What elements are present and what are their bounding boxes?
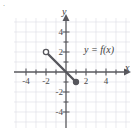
graph-figure: ·	[0, 0, 136, 130]
open-endpoint	[43, 49, 48, 54]
xtick-label-4: 4	[100, 76, 112, 86]
xtick-label-neg4: -4	[18, 76, 34, 86]
ytick-label-neg4: -4	[46, 107, 63, 117]
closed-endpoint	[73, 79, 78, 84]
xtick-label-neg2: -2	[38, 76, 54, 86]
grid-lines	[14, 18, 130, 128]
y-axis-label: y	[62, 6, 66, 17]
ytick-label-neg2: -2	[46, 87, 63, 97]
coordinate-plane	[0, 0, 136, 130]
xtick-label-2: 2	[80, 76, 92, 86]
ytick-label-2: 2	[52, 47, 63, 57]
function-annotation-label: y = f(x)	[84, 44, 114, 55]
ytick-label-4: 4	[52, 27, 63, 37]
x-axis-label: x	[125, 62, 129, 73]
